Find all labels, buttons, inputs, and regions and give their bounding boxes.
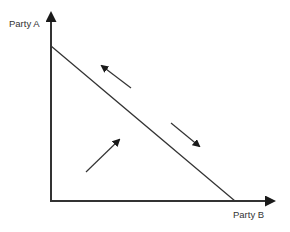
y-axis-label: Party A bbox=[9, 18, 40, 29]
arrow-toward-frontier bbox=[86, 140, 119, 172]
tradeoff-diagram: Party A Party B bbox=[0, 0, 290, 232]
diagram-canvas bbox=[0, 0, 290, 232]
x-axis-label: Party B bbox=[233, 209, 264, 220]
arrow-toward-party-b bbox=[171, 123, 199, 146]
frontier-line bbox=[51, 46, 235, 201]
arrow-toward-party-a bbox=[102, 66, 131, 88]
